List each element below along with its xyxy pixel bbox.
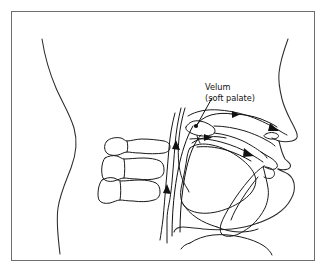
throat-lower-left [181,243,190,249]
pharynx-upflow-arrow-lower [163,184,171,194]
tongue-root [183,204,217,227]
nasal-airflow-path [196,113,232,126]
vocal-tract-diagram: Velum (soft palate) [0,0,330,276]
figure-root: Velum (soft palate) [0,0,330,276]
velum-label-line1: Velum [205,82,230,92]
jaw [220,166,268,236]
cervical-vertebra-3-process [120,181,121,200]
pharynx [178,108,189,192]
cervical-vertebra-1 [105,138,170,156]
cervical-vertebra-1-process [127,141,128,152]
nostril [264,133,279,140]
spinal-column-anterior-wall-inner [167,108,181,243]
velum-soft-palate [186,121,215,136]
head-and-neck-profile [279,39,298,142]
velum-point-marker [194,124,198,128]
lower-lip [258,169,294,223]
oral-outflow-arrow [243,148,254,157]
back-of-head-contour [42,39,76,254]
upper-lip [278,141,290,170]
cervical-vertebra-2-process [124,159,125,178]
velum-label-line2: (soft palate) [205,93,255,103]
throat-front-contour [190,235,272,255]
